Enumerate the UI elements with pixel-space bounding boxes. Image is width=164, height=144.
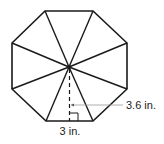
center-point	[67, 65, 71, 69]
octagon-diagram: 3.6 in. 3 in.	[0, 0, 164, 144]
apothem-label: 3.6 in.	[126, 99, 156, 111]
side-length-label: 3 in.	[60, 125, 81, 137]
